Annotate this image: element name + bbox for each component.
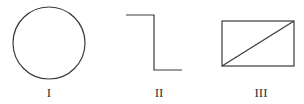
step-line-shape (126, 15, 182, 70)
figure-iii-label: III (255, 85, 268, 100)
figure-i: I (13, 7, 85, 100)
circle-shape (13, 7, 85, 79)
figure-i-label: I (47, 85, 51, 100)
figure-iii: III (222, 21, 294, 100)
figure-ii-label: II (155, 85, 164, 100)
figure-canvas: I II III (0, 0, 304, 104)
figure-ii: II (126, 15, 182, 100)
diagonal-line (222, 21, 294, 66)
